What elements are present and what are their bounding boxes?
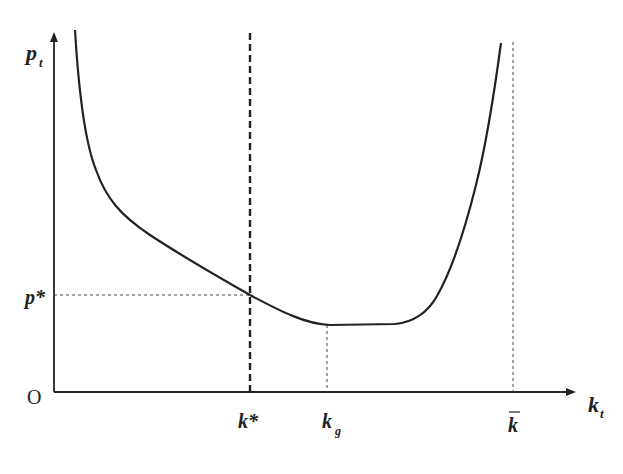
- svg-text:k: k: [588, 392, 599, 417]
- k-star-label: k*: [238, 410, 259, 432]
- svg-text:g: g: [334, 424, 341, 438]
- diagram: p t k t O p* k* k g k: [0, 0, 623, 474]
- svg-text:k: k: [508, 414, 518, 436]
- svg-text:t: t: [39, 55, 43, 70]
- y-axis-label: p t: [24, 40, 43, 70]
- k-bar-label: k: [508, 412, 520, 436]
- svg-text:t: t: [600, 406, 604, 421]
- svg-text:p: p: [24, 40, 37, 65]
- origin-label: O: [27, 386, 41, 408]
- price-curve: [75, 30, 501, 325]
- k-g-label: k g: [322, 410, 341, 438]
- p-star-label: p*: [23, 286, 46, 309]
- svg-text:k: k: [322, 410, 332, 432]
- x-axis-label: k t: [588, 392, 604, 421]
